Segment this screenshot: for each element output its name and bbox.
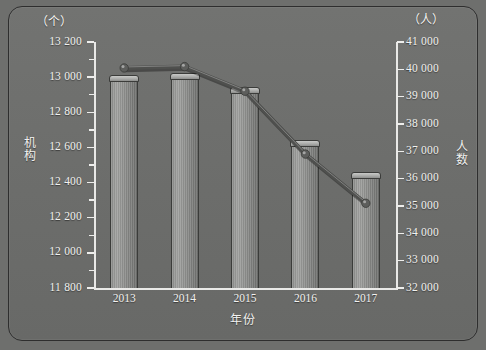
bar xyxy=(110,81,138,288)
left-axis-unit: （个） xyxy=(36,12,72,30)
right-tick-label: 35 000 xyxy=(406,199,439,211)
left-tick xyxy=(87,252,94,254)
right-tick-label: 38 000 xyxy=(406,117,439,129)
left-tick xyxy=(87,287,94,289)
left-tick-label: 12 400 xyxy=(49,175,82,187)
left-tick-label: 12 800 xyxy=(49,105,82,117)
right-axis-line xyxy=(396,42,398,289)
right-tick xyxy=(397,123,404,125)
left-minor-tick xyxy=(89,164,94,166)
x-axis-label: 2015 xyxy=(215,292,275,304)
left-tick-label: 11 800 xyxy=(50,281,82,293)
left-tick xyxy=(87,217,94,219)
bar xyxy=(171,79,199,288)
x-axis-label: 2016 xyxy=(275,292,335,304)
right-tick-label: 34 000 xyxy=(406,226,439,238)
bar xyxy=(231,93,259,288)
right-tick xyxy=(397,233,404,235)
right-tick xyxy=(397,96,404,98)
left-tick-label: 13 000 xyxy=(49,70,82,82)
chart-screenshot: （个） （人） 机构 人数 13 20013 00012 80012 60012… xyxy=(0,0,486,350)
left-minor-tick xyxy=(89,270,94,272)
right-tick xyxy=(397,178,404,180)
left-tick xyxy=(87,76,94,78)
left-tick xyxy=(87,182,94,184)
right-tick xyxy=(397,41,404,43)
left-tick xyxy=(87,41,94,43)
left-axis-title: 机构 xyxy=(20,136,37,162)
right-tick-label: 33 000 xyxy=(406,253,439,265)
left-minor-tick xyxy=(89,199,94,201)
x-axis-label: 2017 xyxy=(336,292,396,304)
right-tick xyxy=(397,151,404,153)
left-axis-line xyxy=(94,42,96,289)
bar-top-cap xyxy=(351,172,381,179)
x-axis-line xyxy=(94,288,398,290)
right-tick xyxy=(397,69,404,71)
right-tick-label: 41 000 xyxy=(406,35,439,47)
x-axis-label: 2013 xyxy=(94,292,154,304)
left-minor-tick xyxy=(89,59,94,61)
left-minor-tick xyxy=(89,129,94,131)
right-axis-title: 人数 xyxy=(452,140,469,166)
right-tick-label: 39 000 xyxy=(406,89,439,101)
right-tick xyxy=(397,205,404,207)
x-axis-title: 年份 xyxy=(0,310,486,328)
left-tick-label: 12 200 xyxy=(49,210,82,222)
right-axis-unit: （人） xyxy=(408,10,444,28)
bar-top-cap xyxy=(170,73,200,80)
right-tick-label: 36 000 xyxy=(406,171,439,183)
right-tick-label: 37 000 xyxy=(406,144,439,156)
left-minor-tick xyxy=(89,235,94,237)
bar-top-cap xyxy=(290,140,320,147)
bar xyxy=(352,178,380,288)
left-tick xyxy=(87,147,94,149)
left-tick-label: 12 000 xyxy=(49,245,82,257)
bar-top-cap xyxy=(109,75,139,82)
x-axis-label: 2014 xyxy=(155,292,215,304)
bar-top-cap xyxy=(230,87,260,94)
right-tick-label: 32 000 xyxy=(406,281,439,293)
left-tick xyxy=(87,112,94,114)
left-tick-label: 12 600 xyxy=(49,140,82,152)
left-tick-label: 13 200 xyxy=(49,35,82,47)
right-tick xyxy=(397,260,404,262)
right-tick-label: 40 000 xyxy=(406,62,439,74)
bar xyxy=(291,146,319,288)
right-tick xyxy=(397,287,404,289)
left-minor-tick xyxy=(89,94,94,96)
